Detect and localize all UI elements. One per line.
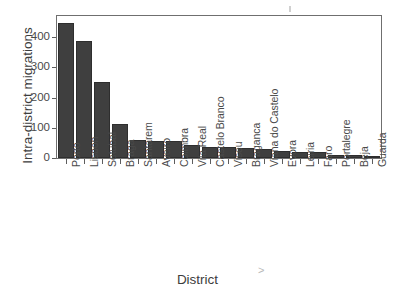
x-tick-label: Beja [358,146,370,167]
x-tick-mark [66,159,67,164]
x-tick-mark [246,159,247,164]
x-tick-label: Guarda [376,133,388,167]
bar-chart: Intra-district migrations 0100200300400 … [0,0,395,299]
y-tick-label: 100 [20,121,50,133]
scan-artifact-arrow: > [258,264,264,276]
x-tick-mark [372,159,373,164]
x-tick-label: Viana do Castelo [268,89,280,167]
bar [58,23,74,158]
x-tick-mark [354,159,355,164]
y-tick-label: 300 [20,60,50,72]
x-tick-mark [156,159,157,164]
x-tick-mark [318,159,319,164]
y-tick-mark [52,128,56,129]
x-tick-label: Setubal [106,132,118,167]
y-tick-mark [52,158,56,159]
x-tick-mark [210,159,211,164]
x-tick-label: Leiria [304,142,316,167]
x-tick-label: Coimbra [178,128,190,167]
x-tick-mark [120,159,121,164]
x-tick-label: Lisbon [88,137,100,167]
x-tick-mark [282,159,283,164]
y-tick-label: 200 [20,91,50,103]
y-tick-mark [52,67,56,68]
x-tick-label: Braganca [250,123,262,167]
x-tick-label: Santarem [142,122,154,167]
x-tick-label: Porto [70,142,82,167]
y-tick-label: 400 [20,30,50,42]
x-tick-mark [138,159,139,164]
x-tick-mark [336,159,337,164]
x-tick-mark [264,159,265,164]
y-tick-label: 0 [20,151,50,163]
x-tick-label: Faro [322,146,334,167]
y-tick-mark [52,37,56,38]
x-tick-label: Braga [124,139,136,167]
x-tick-label: Viseu [232,141,244,167]
x-tick-mark [300,159,301,164]
x-tick-label: Castelo Branco [214,97,226,167]
x-tick-label: Portalegre [340,120,352,167]
x-axis-title: District [0,272,395,287]
x-tick-label: Aveiro [160,138,172,167]
x-tick-mark [174,159,175,164]
x-tick-mark [102,159,103,164]
x-tick-mark [192,159,193,164]
x-tick-label: Evora [286,140,298,167]
x-tick-mark [84,159,85,164]
x-tick-mark [228,159,229,164]
y-tick-mark [52,98,56,99]
x-tick-label: Vila Real [196,126,208,167]
scan-artifact-top [289,6,291,12]
